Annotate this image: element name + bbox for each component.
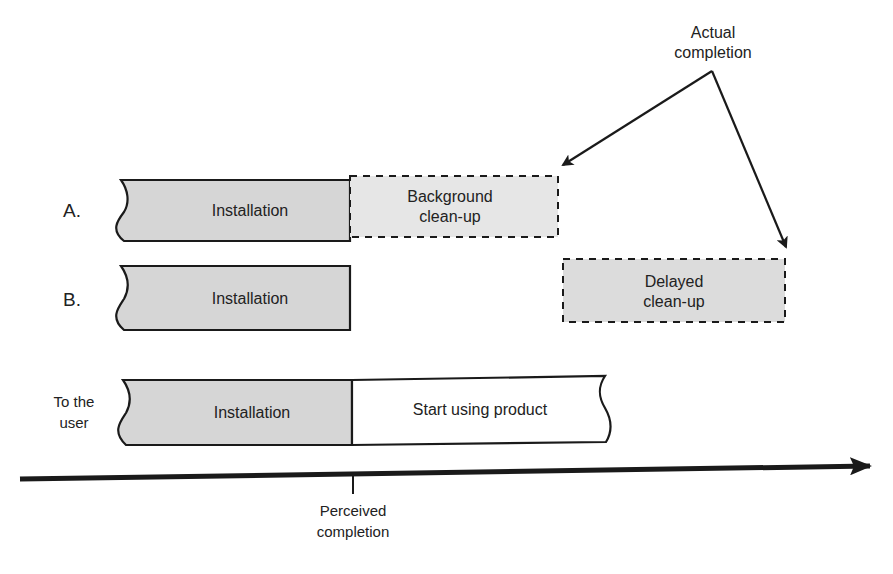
delayed-line2: clean-up	[604, 292, 744, 312]
perceived-line2: completion	[298, 521, 408, 542]
user-start-using-text: Start using product	[370, 400, 590, 420]
perceived-completion-label: Perceived completion	[298, 500, 408, 542]
diagram-canvas	[0, 0, 893, 574]
row-a-installation-text: Installation	[160, 201, 340, 221]
row-b-installation-text: Installation	[160, 289, 340, 309]
delayed-line1: Delayed	[604, 272, 744, 292]
row-b-delayed-cleanup-text: Delayed clean-up	[604, 272, 744, 312]
actual-completion-label: Actual completion	[668, 23, 758, 63]
perceived-line1: Perceived	[298, 500, 408, 521]
to-the-user-label: To the user	[40, 391, 108, 433]
arrow-to-background-cleanup	[563, 71, 712, 165]
actual-completion-line1: Actual	[668, 23, 758, 43]
arrow-to-delayed-cleanup	[712, 71, 786, 247]
row-a-background-cleanup-text: Background clean-up	[380, 187, 520, 227]
row-a-label: A.	[63, 200, 81, 222]
background-line2: clean-up	[380, 207, 520, 227]
actual-completion-line2: completion	[668, 43, 758, 63]
time-axis	[20, 466, 870, 479]
row-b-label: B.	[63, 289, 81, 311]
background-line1: Background	[380, 187, 520, 207]
to-the-user-line2: user	[40, 412, 108, 433]
to-the-user-line1: To the	[40, 391, 108, 412]
user-installation-text: Installation	[162, 403, 342, 423]
